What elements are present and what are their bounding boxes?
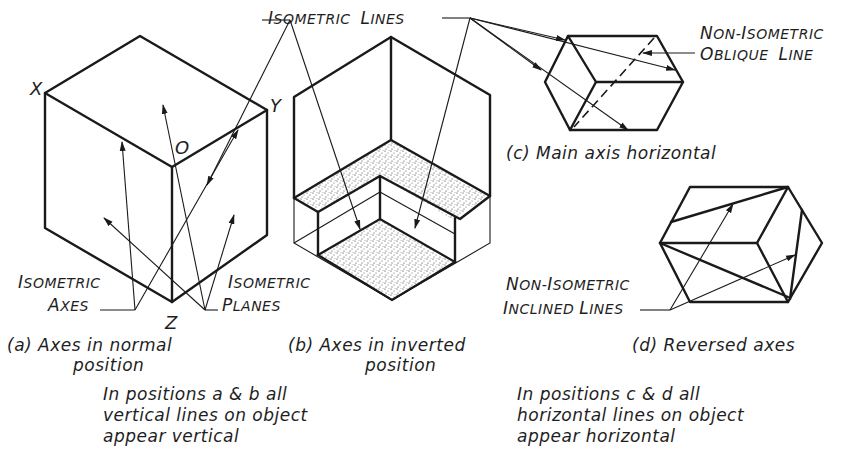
stippled-floor (318, 219, 455, 300)
axis-label-x: X (30, 78, 43, 99)
cube-left-face (45, 93, 172, 302)
planes-arrow (163, 105, 205, 310)
note-right-line: appear horizontal (517, 426, 744, 447)
axes-arrow (122, 142, 135, 310)
caption-d: (d) Reversed axes (632, 335, 795, 355)
planes-arrow (104, 218, 205, 310)
axis-label-origin: O (175, 137, 190, 158)
isometric-axes-label: ISOMETRIC (18, 272, 101, 292)
cube-normal-position (45, 36, 267, 310)
box-main-axis-horizontal (545, 36, 695, 130)
note-left-line: appear vertical (103, 426, 308, 447)
note-right: In positions c & d all horizontal lines … (517, 384, 744, 447)
isometric-planes-label: ISOMETRIC (228, 272, 311, 292)
cube-top-face (45, 36, 267, 167)
caption-a-line2: position (73, 355, 144, 375)
note-right-line: In positions c & d all (517, 384, 744, 405)
box-reversed-axes (640, 187, 822, 310)
note-right-line: horizontal lines on object (517, 405, 744, 426)
note-left-line: In positions a & b all (103, 384, 308, 405)
non-isometric-inclined-label: NON-ISOMETRIC (506, 274, 630, 294)
axis-label-y: Y (270, 95, 282, 116)
non-isometric-oblique-label: NON-ISOMETRIC (700, 23, 824, 43)
note-left-line: vertical lines on object (103, 405, 308, 426)
non-isometric-oblique-label-2: OBLIQUE LINE (700, 44, 813, 64)
caption-c: (c) Main axis horizontal (506, 143, 716, 163)
non-isometric-inclined-label-2: INCLINED LINES (503, 298, 624, 318)
caption-b-line1: (b) Axes in inverted (288, 335, 466, 355)
note-left: In positions a & b all vertical lines on… (103, 384, 308, 447)
isometric-axes-label-2: AXES (48, 295, 89, 315)
caption-a-line1: (a) Axes in normal (7, 335, 172, 355)
isometric-planes-label-2: PLANES (222, 295, 281, 315)
isometric-lines-label: ISOMETRIC LINES (268, 8, 405, 28)
axis-label-z: Z (165, 312, 178, 333)
caption-b-line2: position (365, 355, 436, 375)
